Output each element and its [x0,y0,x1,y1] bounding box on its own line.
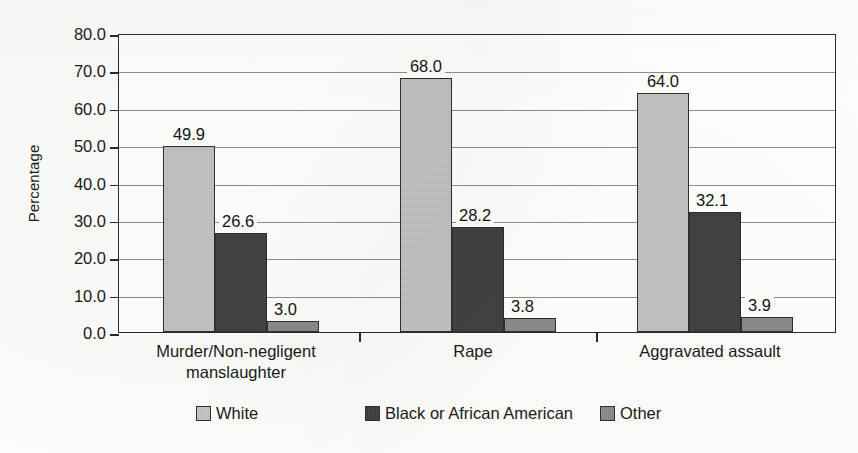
bar [400,78,452,332]
gridline [119,185,835,186]
y-axis-tick-mark [110,222,119,224]
gridline [119,147,835,148]
y-axis-tick-label: 40.0 [46,176,106,192]
y-axis-tick-mark [110,259,119,261]
y-axis-tick-label: 50.0 [46,138,106,154]
gridline [119,110,835,111]
y-axis-tick-label: 0.0 [46,325,106,341]
legend-item-label: Other [620,404,661,423]
legend-item[interactable]: Black or African American [365,404,573,423]
y-axis-tick-mark [110,72,119,74]
bar [741,317,793,332]
legend-item-label: White [216,404,258,423]
bar-value-label: 32.1 [693,192,731,209]
bar-value-label: 28.2 [456,207,494,224]
bar [637,93,689,332]
bar-value-label: 64.0 [644,73,682,90]
chart-legend: WhiteBlack or African AmericanOther [118,404,836,430]
y-axis-tick-mark [110,334,119,336]
y-axis-title-text: Percentage [25,145,42,223]
bar-value-label: 49.9 [170,126,208,143]
legend-item-label: Black or African American [385,404,573,423]
bar-value-label: 68.0 [407,58,445,75]
gridline [119,72,835,73]
bar [267,321,319,332]
bar [689,212,741,332]
bar-chart-figure: Percentage 80.070.060.050.040.030.020.01… [0,0,858,453]
bar [163,146,215,333]
y-axis-tick-mark [110,147,119,149]
y-axis-tick-mark [110,35,119,37]
y-axis-tick-mark [110,110,119,112]
bar [452,227,504,332]
y-axis-tick-labels: 80.070.060.050.040.030.020.010.00.0 [42,0,106,453]
y-axis-tick-mark [110,185,119,187]
bar-value-label: 26.6 [219,213,257,230]
legend-item[interactable]: Other [600,404,661,423]
legend-item[interactable]: White [196,404,258,423]
x-axis-category-labels: Murder/Non-negligent manslaughterRapeAgg… [118,341,836,387]
legend-swatch-other [600,406,615,421]
x-axis-category-label: Aggravated assault [550,341,858,362]
y-axis-tick-label: 80.0 [46,26,106,42]
y-axis-tick-label: 70.0 [46,63,106,79]
y-axis-tick-label: 20.0 [46,250,106,266]
plot-area: 49.926.63.068.028.23.864.032.13.9 [118,34,836,333]
y-axis-tick-mark [110,297,119,299]
legend-swatch-black-or-african-american [365,406,380,421]
bar [504,318,556,332]
bar-value-label: 3.0 [271,301,300,318]
bar-value-label: 3.8 [508,298,537,315]
bar-value-label: 3.9 [745,297,774,314]
y-axis-tick-label: 60.0 [46,101,106,117]
y-axis-tick-label: 30.0 [46,213,106,229]
legend-swatch-white [196,406,211,421]
bar [215,233,267,332]
y-axis-tick-label: 10.0 [46,288,106,304]
